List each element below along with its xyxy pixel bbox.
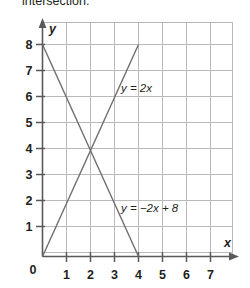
- x-tick-labels: 1 2 3 4 5 6 7: [63, 268, 214, 282]
- x-tick-label-1: 1: [63, 268, 70, 282]
- y-tick-label-2: 2: [26, 194, 33, 208]
- equation-label-y-equals-2x: y = 2x: [120, 82, 153, 94]
- y-axis-ticks: [36, 45, 45, 227]
- y-tick-label-1: 1: [26, 220, 33, 234]
- y-tick-label-8: 8: [26, 38, 33, 52]
- y-tick-label-4: 4: [26, 142, 33, 156]
- vertical-gridlines: [43, 22, 233, 257]
- coordinate-plane-svg: 8 7 6 5 4 3 2 1 0 1 2 3 4 5 6 7 y x y = …: [0, 0, 250, 288]
- origin-label: 0: [30, 263, 37, 277]
- equation-label-y-equals-neg2x-plus-8: y = −2x + 8: [120, 202, 179, 214]
- caption-clip: intersection.: [22, 0, 242, 9]
- y-tick-labels: 8 7 6 5 4 3 2 1: [26, 38, 33, 234]
- y-tick-label-3: 3: [26, 168, 33, 182]
- x-axis: [43, 253, 240, 261]
- x-tick-label-4: 4: [135, 268, 142, 282]
- x-tick-label-6: 6: [183, 268, 190, 282]
- graph-figure: intersection.: [0, 0, 250, 288]
- y-axis-label: y: [48, 22, 57, 36]
- x-tick-label-5: 5: [159, 268, 166, 282]
- x-axis-label: x: [223, 236, 232, 250]
- y-tick-label-7: 7: [26, 64, 33, 78]
- y-axis: [39, 18, 47, 257]
- horizontal-gridlines: [43, 23, 233, 253]
- x-tick-label-7: 7: [207, 268, 214, 282]
- y-tick-label-6: 6: [26, 90, 33, 104]
- x-tick-label-3: 3: [111, 268, 118, 282]
- x-tick-label-2: 2: [87, 268, 94, 282]
- y-tick-label-5: 5: [26, 116, 33, 130]
- caption-text: intersection.: [22, 0, 242, 9]
